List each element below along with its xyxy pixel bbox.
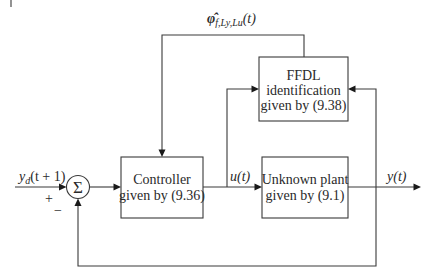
reference-signal-label: yd(t + 1) bbox=[17, 169, 66, 186]
ref-arg: (t + 1) bbox=[30, 169, 65, 185]
u-arg: (t) bbox=[237, 169, 251, 185]
y-arg: (t) bbox=[393, 169, 407, 185]
controller-label-line1: Controller bbox=[133, 172, 191, 187]
arrowhead-icon bbox=[252, 86, 260, 93]
output-signal-label: y(t) bbox=[385, 169, 407, 185]
plus-sign: + bbox=[45, 191, 53, 206]
arrowhead-icon bbox=[75, 199, 82, 207]
ffdl-label-line2: identification bbox=[266, 83, 341, 98]
arrowhead-icon bbox=[414, 184, 422, 191]
arrowhead-icon bbox=[159, 150, 166, 158]
plant-label-line2: given by (9.1) bbox=[266, 188, 345, 204]
arrowhead-icon bbox=[348, 86, 356, 93]
output-to-ffdl-line bbox=[354, 89, 376, 187]
control-signal-label: u(t) bbox=[230, 169, 251, 185]
phi-arg: (t) bbox=[243, 11, 257, 27]
ffdl-label-line1: FFDL bbox=[286, 68, 320, 83]
phi-sub: f,Ly,Lu bbox=[215, 17, 243, 28]
plant-label-line1: Unknown plant bbox=[262, 172, 349, 187]
sigma-symbol: Σ bbox=[73, 178, 83, 197]
controller-label-line2: given by (9.36) bbox=[119, 188, 205, 204]
arrowhead-icon bbox=[59, 184, 67, 191]
minus-sign: − bbox=[54, 203, 62, 218]
u-base: u bbox=[230, 169, 237, 184]
block-diagram: Σ Controller given by (9.36) Unknown pla… bbox=[0, 0, 434, 277]
estimate-signal-label: φ̂f,Ly,Lu(t) bbox=[207, 11, 256, 28]
ffdl-label-line3: given by (9.38) bbox=[261, 98, 347, 114]
